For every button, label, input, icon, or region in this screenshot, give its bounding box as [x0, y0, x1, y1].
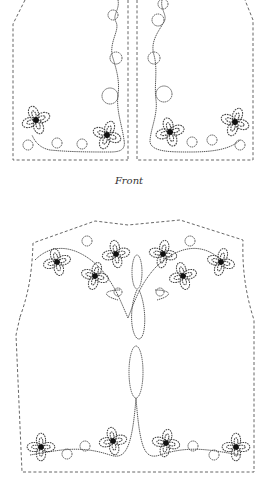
vest-embroidery-pattern [0, 0, 258, 485]
front-left-panel [13, 0, 128, 160]
back-panel [16, 220, 254, 472]
front-right-panel [137, 0, 253, 160]
front-label: Front [0, 175, 258, 186]
